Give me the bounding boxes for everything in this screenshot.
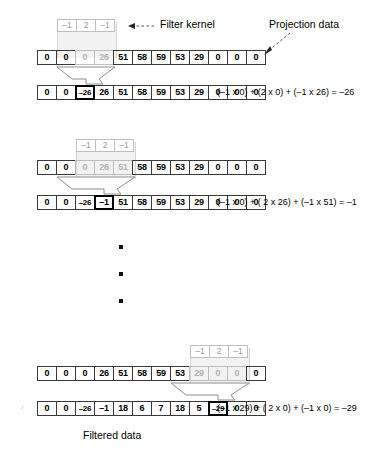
equation-3: (–1 x 29) + ( 2 x 0) + (–1 x 0) = –29 [217, 404, 357, 413]
data-cell: 0 [56, 50, 76, 65]
filter-kernel-3: –1 2 –1 [190, 345, 248, 358]
kernel-cell: 2 [209, 345, 229, 358]
data-cell: 0 [56, 195, 76, 210]
data-cell: 53 [170, 195, 190, 210]
kernel-cell: –1 [228, 345, 248, 358]
data-cell: 0 [56, 85, 76, 100]
kernel-cell: –1 [95, 19, 115, 32]
data-cell: 58 [132, 195, 152, 210]
data-cell: 51 [113, 50, 133, 65]
data-cell: 0 [208, 160, 228, 175]
data-cell: 18 [113, 401, 133, 416]
kernel-cell: –1 [190, 345, 210, 358]
data-cell: 0 [37, 85, 57, 100]
data-cell: 0 [75, 50, 95, 65]
data-cell: 0 [75, 366, 95, 381]
data-cell: 26 [94, 85, 114, 100]
data-cell: 18 [170, 401, 190, 416]
data-cell: 0 [37, 401, 57, 416]
data-cell: 0 [246, 160, 266, 175]
data-cell: 0 [208, 366, 228, 381]
filter-kernel-arrow [118, 20, 158, 34]
data-cell: 0 [227, 366, 247, 381]
data-cell: 29 [189, 160, 209, 175]
filter-kernel-2: –1 2 –1 [76, 139, 134, 152]
data-cell: 51 [113, 160, 133, 175]
ellipsis-dot [119, 245, 123, 249]
kernel-cell: –1 [57, 19, 77, 32]
projection-data-row-3: 0 0 0 26 51 58 59 53 29 0 0 0 [37, 366, 266, 381]
data-cell: 59 [151, 85, 171, 100]
data-cell: 0 [246, 50, 266, 65]
kernel-cell: 2 [95, 139, 115, 152]
data-cell: 59 [151, 366, 171, 381]
data-cell: 51 [113, 195, 133, 210]
data-cell: –26 [75, 401, 95, 416]
ellipsis-dot [119, 272, 123, 276]
data-cell: 58 [132, 85, 152, 100]
ellipsis-dot [119, 299, 123, 303]
data-cell: 53 [170, 160, 190, 175]
highlighted-result-cell: –26 [75, 85, 95, 100]
highlighted-result-cell: –29 [208, 401, 228, 416]
data-cell: 53 [170, 366, 190, 381]
data-cell: 29 [189, 195, 209, 210]
data-cell: 6 [132, 401, 152, 416]
data-cell: 0 [75, 160, 95, 175]
data-cell: 58 [132, 160, 152, 175]
data-cell: 0 [56, 401, 76, 416]
data-cell: 0 [37, 160, 57, 175]
scan-artifact: ♪ [20, 402, 24, 411]
kernel-cell: –1 [114, 139, 134, 152]
data-cell: 26 [94, 50, 114, 65]
filter-kernel-1: –1 2 –1 [57, 19, 115, 32]
data-cell: 0 [227, 50, 247, 65]
data-cell: –1 [94, 401, 114, 416]
data-cell: 0 [56, 366, 76, 381]
projection-data-row-2: 0 0 0 26 51 58 59 53 29 0 0 0 [37, 160, 266, 175]
filter-kernel-label: Filter kernel [160, 19, 215, 30]
data-cell: 0 [246, 366, 266, 381]
filtered-data-caption: Filtered data [83, 430, 141, 441]
data-cell: –26 [75, 195, 95, 210]
data-cell: 59 [151, 195, 171, 210]
data-cell: 29 [189, 366, 209, 381]
data-cell: 53 [170, 50, 190, 65]
convolution-funnel-3 [169, 382, 253, 402]
data-cell: 58 [132, 366, 152, 381]
data-cell: 51 [113, 366, 133, 381]
data-cell: 26 [94, 160, 114, 175]
data-cell: 59 [151, 160, 171, 175]
projection-data-row-1: 0 0 0 26 51 58 59 53 29 0 0 0 [37, 50, 266, 65]
data-cell: 58 [132, 50, 152, 65]
kernel-cell: 2 [76, 19, 96, 32]
data-cell: 29 [189, 85, 209, 100]
data-cell: 0 [37, 366, 57, 381]
data-cell: 7 [151, 401, 171, 416]
highlighted-result-cell: –1 [94, 195, 114, 210]
data-cell: 51 [113, 85, 133, 100]
convolution-funnel-1 [55, 66, 119, 86]
projection-data-label: Projection data [269, 19, 339, 30]
equation-1: (–1 x 0) + (2 x 0) + (–1 x 26) = –26 [217, 88, 354, 97]
data-cell: 53 [170, 85, 190, 100]
data-cell: 0 [208, 50, 228, 65]
data-cell: 5 [189, 401, 209, 416]
data-cell: 26 [94, 366, 114, 381]
data-cell: 0 [227, 160, 247, 175]
data-cell: 0 [56, 160, 76, 175]
data-cell: 29 [189, 50, 209, 65]
kernel-cell: –1 [76, 139, 96, 152]
data-cell: 0 [37, 195, 57, 210]
data-cell: 0 [37, 50, 57, 65]
equation-2: (–1 x 0) + ( 2 x 26) + (–1 x 51) = –1 [217, 198, 357, 207]
convolution-funnel-2 [55, 176, 139, 196]
data-cell: 59 [151, 50, 171, 65]
